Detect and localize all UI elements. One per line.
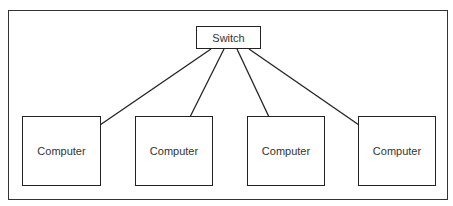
computer-node-3: Computer <box>247 116 325 186</box>
computer-label: Computer <box>262 145 310 157</box>
switch-label: Switch <box>212 32 244 44</box>
switch-node: Switch <box>196 26 261 49</box>
computer-node-2: Computer <box>135 116 213 186</box>
computer-node-1: Computer <box>22 116 101 186</box>
computer-node-4: Computer <box>358 116 436 186</box>
computer-label: Computer <box>373 145 421 157</box>
edge-switch-computer-1 <box>100 49 211 125</box>
computer-label: Computer <box>37 145 85 157</box>
computer-label: Computer <box>150 145 198 157</box>
edge-switch-computer-4 <box>249 49 359 125</box>
